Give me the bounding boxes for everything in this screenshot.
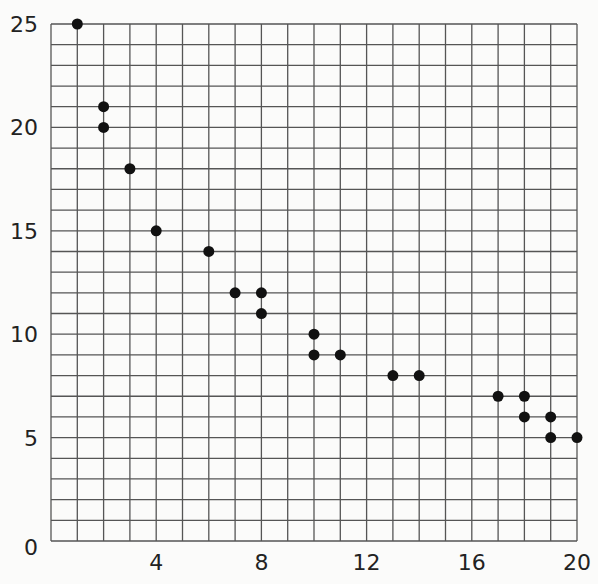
grid-lines (51, 24, 577, 541)
data-point (335, 349, 346, 360)
data-point (124, 163, 135, 174)
data-point (72, 19, 83, 30)
data-point (493, 391, 504, 402)
y-axis-tick-labels: 0510152025 (10, 12, 38, 560)
data-point (519, 411, 530, 422)
data-point (572, 432, 583, 443)
scatter-chart: 48121620 0510152025 (0, 0, 598, 584)
x-axis-tick-labels: 48121620 (149, 550, 591, 575)
y-tick-label: 25 (10, 12, 38, 37)
x-tick-label: 4 (149, 550, 163, 575)
x-tick-label: 8 (254, 550, 268, 575)
data-point (256, 308, 267, 319)
data-point (256, 287, 267, 298)
data-point (309, 329, 320, 340)
y-tick-label: 15 (10, 219, 38, 244)
y-tick-label: 0 (24, 535, 38, 560)
data-point (519, 391, 530, 402)
data-point (545, 432, 556, 443)
x-tick-label: 16 (458, 550, 486, 575)
data-point (98, 101, 109, 112)
data-point (230, 287, 241, 298)
y-tick-label: 10 (10, 322, 38, 347)
x-tick-label: 20 (563, 550, 591, 575)
data-point (203, 246, 214, 257)
data-point (414, 370, 425, 381)
data-point (309, 349, 320, 360)
data-point (387, 370, 398, 381)
data-point (151, 225, 162, 236)
data-point (98, 122, 109, 133)
y-tick-label: 5 (24, 426, 38, 451)
data-point (545, 411, 556, 422)
x-tick-label: 12 (353, 550, 381, 575)
y-tick-label: 20 (10, 115, 38, 140)
